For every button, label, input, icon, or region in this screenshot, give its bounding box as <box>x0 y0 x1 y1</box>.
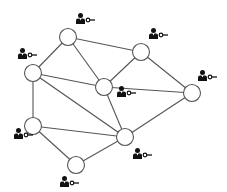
key-icon <box>86 18 95 22</box>
user-icon <box>133 148 142 159</box>
node-n1[interactable] <box>60 29 77 46</box>
node-n5[interactable] <box>184 85 201 102</box>
user-icon <box>18 48 27 59</box>
user-key-icon <box>18 48 37 59</box>
edge-n5-n7 <box>125 93 192 137</box>
user-key-icon <box>133 148 152 159</box>
nodes-layer <box>25 29 201 174</box>
user-icon <box>76 13 85 24</box>
user-icon <box>198 70 207 81</box>
edges-layer <box>33 37 192 165</box>
user-key-icon <box>60 176 79 187</box>
node-n7[interactable] <box>117 129 134 146</box>
user-icon <box>149 28 158 39</box>
user-icon <box>14 128 23 139</box>
user-key-icon <box>76 13 95 24</box>
edge-n1-n3 <box>68 37 141 52</box>
node-n3[interactable] <box>133 44 150 61</box>
key-icon <box>143 153 152 157</box>
edge-n4-n5 <box>104 87 192 93</box>
node-n6[interactable] <box>25 118 42 135</box>
key-icon <box>159 33 168 37</box>
node-n2[interactable] <box>25 65 42 82</box>
user-icon <box>60 176 69 187</box>
network-diagram <box>0 0 227 192</box>
node-n4[interactable] <box>96 79 113 96</box>
user-key-icon <box>149 28 168 39</box>
user-key-icon <box>117 86 136 97</box>
key-icon <box>28 53 37 57</box>
key-icon <box>127 91 136 95</box>
key-icon <box>70 181 79 185</box>
user-key-icon <box>198 70 217 81</box>
key-icon <box>208 75 217 79</box>
edge-n3-n5 <box>141 52 192 93</box>
edge-n1-n4 <box>68 37 104 87</box>
node-n8[interactable] <box>68 157 85 174</box>
